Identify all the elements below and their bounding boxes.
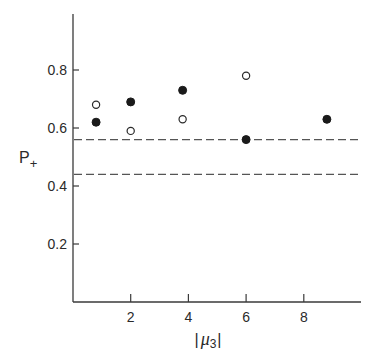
- y-tick-label: 0.4: [48, 178, 68, 194]
- open-circle-marker: [92, 101, 99, 108]
- axes: [73, 14, 361, 302]
- y-tick-label: 0.2: [48, 236, 68, 252]
- x-tick-label: 8: [300, 309, 308, 325]
- data-points: [92, 72, 331, 143]
- filled-circle-marker: [92, 118, 100, 126]
- reference-lines: [74, 140, 362, 175]
- scatter-chart: 0.20.40.60.8 2468 P+ |μ3|: [0, 0, 376, 364]
- x-tick-label: 2: [127, 309, 135, 325]
- filled-circle-marker: [127, 98, 135, 106]
- open-circle-marker: [179, 116, 186, 123]
- x-tick-label: 4: [185, 309, 193, 325]
- open-circle-marker: [127, 127, 134, 134]
- x-tick-label: 6: [242, 309, 250, 325]
- y-axis-label: P+: [19, 149, 37, 171]
- filled-circle-marker: [242, 136, 250, 144]
- y-ticks: 0.20.40.60.8: [48, 62, 79, 252]
- filled-circle-marker: [179, 86, 187, 94]
- y-tick-label: 0.6: [48, 120, 68, 136]
- filled-circle-marker: [323, 115, 331, 123]
- y-tick-label: 0.8: [48, 62, 68, 78]
- x-axis-label: |μ3|: [194, 329, 221, 351]
- open-circle-marker: [243, 72, 250, 79]
- x-ticks: 2468: [127, 294, 308, 325]
